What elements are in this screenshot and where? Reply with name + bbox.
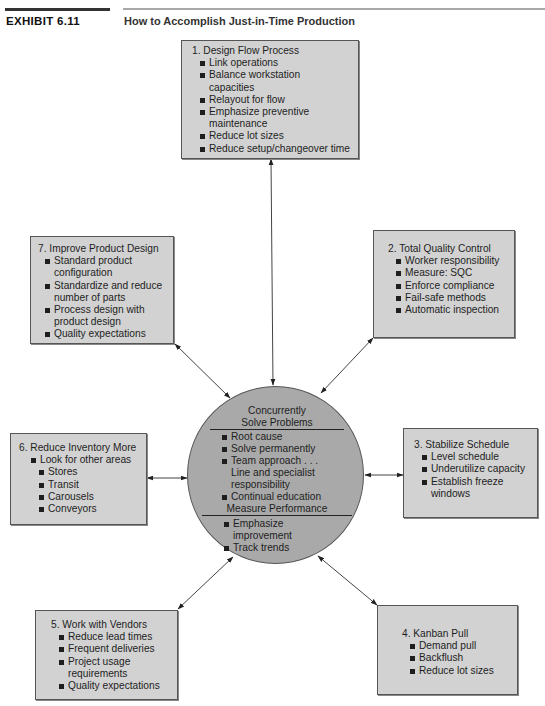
list-item: Reduce setup/changeover time — [200, 143, 352, 155]
list-item: Establish freezewindows — [422, 476, 534, 500]
list-item: Underutilize capacity — [422, 463, 534, 475]
bullet-icon — [410, 669, 415, 674]
bullet-icon — [200, 61, 205, 66]
list-item: Fail-safe methods — [396, 292, 510, 304]
sub-list-item: Transit — [39, 479, 143, 491]
list-item: Reduce lot sizes — [410, 665, 513, 677]
box-heading: 2. Total Quality Control — [388, 243, 510, 255]
list-item: Solve permanently — [222, 443, 340, 455]
list-item: Process design withproduct design — [45, 304, 170, 328]
bullet-icon — [396, 259, 401, 264]
bullet-icon — [39, 495, 44, 500]
box-heading: 7. Improve Product Design — [38, 243, 170, 255]
sub-list-item: Carousels — [39, 491, 143, 503]
bullet-icon — [222, 447, 227, 452]
list-item: Demand pull — [410, 640, 513, 652]
sub-list-item: Conveyors — [39, 503, 143, 515]
bullet-icon — [222, 495, 227, 500]
bullet-icon — [59, 684, 64, 689]
list-item: Frequent deliveries — [59, 643, 174, 655]
arrow-box1-center — [271, 159, 273, 385]
bullet-icon — [200, 134, 205, 139]
box-heading: 5. Work with Vendors — [51, 619, 174, 631]
list-item: Standard productconfiguration — [45, 255, 170, 279]
bullet-icon — [224, 546, 229, 551]
bullet-icon — [45, 332, 50, 337]
bullet-icon — [39, 470, 44, 475]
sub-list-item: Stores — [39, 466, 143, 478]
bullet-icon — [59, 647, 64, 652]
center-circle: Concurrently Solve Problems Root cause S… — [187, 386, 364, 564]
arrow-box5-center — [178, 557, 233, 609]
bullet-icon — [59, 660, 64, 665]
bullet-icon — [200, 110, 205, 115]
list-item: Worker responsibility — [396, 255, 510, 267]
bullet-icon — [31, 458, 36, 463]
bullet-icon — [422, 467, 427, 472]
bullet-icon — [59, 635, 64, 640]
list-item: Link operations — [200, 57, 352, 69]
list-item: Relayout for flow — [200, 94, 352, 106]
list-item: Emphasize preventivemaintenance — [200, 106, 352, 130]
box-total-quality-control: 2. Total Quality Control Worker responsi… — [373, 230, 515, 338]
bullet-icon — [224, 522, 229, 527]
box-improve-product-design: 7. Improve Product Design Standard produ… — [30, 236, 174, 344]
box-stabilize-schedule: 3. Stabilize Schedule Level schedule Und… — [403, 428, 538, 518]
list-item: Team approach . . .Line and specialistre… — [222, 455, 340, 491]
bullet-icon — [222, 459, 227, 464]
bullet-icon — [410, 656, 415, 661]
list-item: Quality expectations — [45, 328, 170, 340]
box-work-with-vendors: 5. Work with Vendors Reduce lead times F… — [35, 610, 178, 700]
bullet-icon — [200, 98, 205, 103]
list-item: Track trends — [224, 542, 340, 554]
list-item: Reduce lot sizes — [200, 130, 352, 142]
bullet-icon — [396, 296, 401, 301]
bullet-icon — [39, 507, 44, 512]
list-item: Balance workstationcapacities — [200, 69, 352, 93]
box-heading: 4. Kanban Pull — [402, 628, 513, 640]
bullet-icon — [200, 147, 205, 152]
box-kanban-pull: 4. Kanban Pull Demand pull Backflush Red… — [377, 605, 518, 695]
bullet-icon — [422, 480, 427, 485]
bullet-icon — [222, 435, 227, 440]
list-item: Emphasizeimprovement — [224, 518, 340, 542]
arrow-box2-center — [321, 338, 373, 393]
list-item: Backflush — [410, 652, 513, 664]
bullet-icon — [45, 259, 50, 264]
bullet-icon — [45, 284, 50, 289]
list-item: Measure: SQC — [396, 267, 510, 279]
bullet-icon — [200, 73, 205, 78]
bullet-icon — [396, 271, 401, 276]
section-title-solve-problems: Concurrently Solve Problems — [214, 405, 340, 430]
bullet-icon — [396, 284, 401, 289]
list-item: Root cause — [222, 431, 340, 443]
list-item: Automatic inspection — [396, 304, 510, 316]
section-title-measure-performance: Measure Performance — [202, 503, 352, 516]
arrow-box7-center — [175, 344, 230, 398]
box-heading: 6. Reduce Inventory More — [19, 442, 143, 454]
list-item: Enforce compliance — [396, 280, 510, 292]
bullet-icon — [422, 455, 427, 460]
bullet-icon — [410, 644, 415, 649]
bullet-icon — [45, 308, 50, 313]
list-item: Quality expectations — [59, 680, 174, 692]
bullet-icon — [39, 483, 44, 488]
arrow-box4-center — [318, 556, 377, 605]
list-item: Continual education — [222, 491, 340, 503]
box-heading: 1. Design Flow Process — [192, 45, 352, 57]
box-design-flow-process: 1. Design Flow Process Link operations B… — [181, 40, 359, 159]
box-reduce-inventory-more: 6. Reduce Inventory More Look for other … — [10, 433, 147, 525]
list-item: Project usagerequirements — [59, 656, 174, 680]
list-item: Standardize and reducenumber of parts — [45, 280, 170, 304]
box-heading: 3. Stabilize Schedule — [414, 439, 534, 451]
list-item: Reduce lead times — [59, 631, 174, 643]
list-item: Level schedule — [422, 451, 534, 463]
bullet-icon — [396, 308, 401, 313]
list-item: Look for other areas Stores Transit Caro… — [31, 454, 143, 515]
